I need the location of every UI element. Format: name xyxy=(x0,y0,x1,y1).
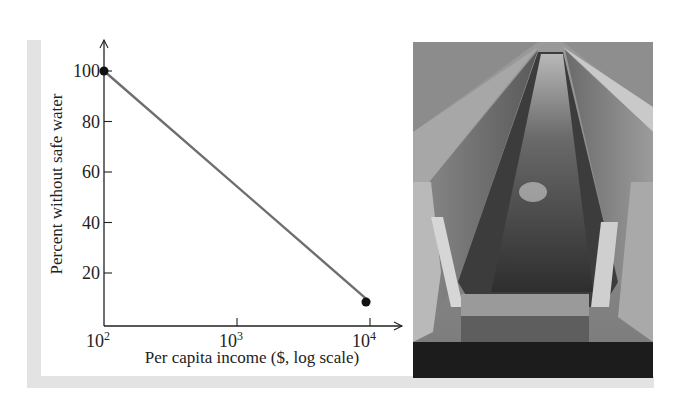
y-axis-label: Percent without safe water xyxy=(47,93,66,274)
x-ticks: 102103104 xyxy=(86,318,376,351)
y-tick-label: 60 xyxy=(82,162,100,182)
line-chart: 20406080100 102103104 Percent without sa… xyxy=(0,0,410,410)
data-point xyxy=(100,67,109,76)
x-axis-label: Per capita income ($, log scale) xyxy=(145,348,359,367)
y-tick-label: 40 xyxy=(82,213,100,233)
data-point xyxy=(362,298,371,307)
photo-illustration xyxy=(413,42,653,378)
x-tick-label: 102 xyxy=(86,329,110,351)
y-tick-label: 100 xyxy=(73,61,100,81)
y-tick-label: 20 xyxy=(82,263,100,283)
y-ticks: 20406080100 xyxy=(73,61,112,283)
water-channel-photo xyxy=(413,42,653,378)
data-line xyxy=(104,71,370,302)
y-tick-label: 80 xyxy=(82,112,100,132)
